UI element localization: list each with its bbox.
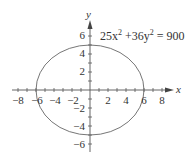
y-axis-label: y [85,8,91,20]
svg-text:−6: −6 [31,94,43,106]
svg-text:4: 4 [80,47,86,59]
svg-text:4: 4 [123,94,129,106]
x-axis-label: x [175,83,181,95]
x-tick-labels: −8 −6 −4 −2 2 4 6 8 [12,94,165,106]
svg-text:−4: −4 [49,94,61,106]
svg-text:6: 6 [80,29,86,41]
svg-text:8: 8 [159,94,165,106]
y-axis-arrow-icon [88,20,93,29]
y-tick-labels: 6 4 2 −2 −4 −6 [73,29,85,150]
equation-annotation: 25x2 +36y2 = 900 [100,28,185,43]
svg-text:−8: −8 [12,94,24,106]
ellipse-plot: −8 −6 −4 −2 2 4 6 8 6 4 2 −2 −4 −6 x y 2… [0,0,188,159]
svg-text:−2: −2 [73,102,85,114]
svg-text:−6: −6 [73,138,85,150]
svg-text:6: 6 [141,94,147,106]
svg-text:2: 2 [105,94,111,106]
svg-text:2: 2 [80,65,86,77]
x-axis-arrow-icon [165,88,174,93]
svg-text:−4: −4 [73,120,85,132]
